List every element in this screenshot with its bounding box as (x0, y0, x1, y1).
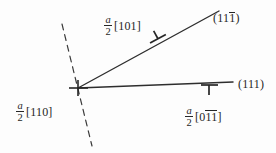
lower-fraction-denominator: 2 (185, 118, 192, 128)
dashed-trace-line (62, 24, 92, 146)
upper-index-digits: 101 (118, 19, 137, 33)
lower-plane-label: (111) (238, 78, 264, 90)
upper-fraction-denominator: 2 (104, 27, 111, 37)
inclined-dislocation-icon (146, 27, 166, 44)
horizontal-dislocation-icon (201, 85, 218, 95)
upper-fraction-numerator: a (104, 15, 111, 25)
upper-burgers-expression: a 2 [101] (104, 15, 141, 37)
lower-burgers-expression: a 2 [011] (185, 106, 222, 128)
lower-index-barred-digits: 11 (205, 111, 217, 123)
lower-plane-paren-close: ) (260, 77, 264, 91)
upper-bracket-close: ] (137, 19, 141, 33)
left-burgers-vector-label: a 2 [110] (16, 96, 53, 123)
upper-fraction: a 2 (104, 15, 112, 37)
dislocation-node-figure: a 2 [101] a 2 [110] a 2 [011] (0, 0, 276, 153)
upper-plane-paren-close: ) (235, 11, 239, 25)
left-index-digits: 110 (30, 105, 48, 119)
upper-miller-index: [101] (114, 20, 141, 32)
left-fraction-denominator: 2 (16, 113, 23, 123)
left-bracket-close: ] (48, 105, 52, 119)
upper-plane-label: (111) (213, 12, 240, 24)
lower-fraction: a 2 (185, 106, 193, 128)
upper-burgers-vector-label: a 2 [101] (104, 10, 141, 37)
lower-burgers-vector-label: a 2 [011] (185, 101, 222, 128)
left-burgers-expression: a 2 [110] (16, 101, 53, 123)
lower-fraction-numerator: a (185, 106, 192, 116)
left-miller-index: [110] (26, 106, 53, 118)
lower-plane-digits: 111 (242, 77, 260, 91)
left-fraction-numerator: a (16, 101, 23, 111)
left-fraction: a 2 (16, 101, 24, 123)
lower-bracket-close: ] (217, 110, 221, 124)
inclined-dislocation-line (78, 11, 219, 88)
lower-miller-index: [011] (195, 111, 222, 123)
upper-plane-barred-digit: 1 (229, 12, 235, 24)
node-dislocation-icon (69, 80, 88, 96)
upper-plane-digits: 11 (217, 11, 229, 25)
